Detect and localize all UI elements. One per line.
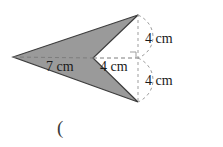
dimension-label-mid-4cm: 4 cm [100,60,128,74]
trailing-parenthesis: ( [57,118,63,137]
dimension-label-lower-4cm: 4 cm [145,74,173,88]
right-angle-marker-icon [130,52,136,58]
dimension-label-upper-4cm: 4 cm [145,32,173,46]
dimension-label-7cm: 7 cm [46,60,74,74]
geometry-figure: 7 cm 4 cm 4 cm 4 cm ( [0,0,223,147]
